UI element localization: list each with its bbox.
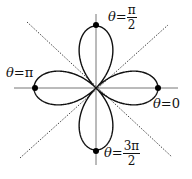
theta-symbol: θ [6, 65, 14, 80]
label-theta-pi: θ=π [6, 66, 33, 79]
equals-sign: = [161, 96, 172, 111]
fraction-numerator: π [127, 4, 137, 18]
equals-sign: = [14, 65, 25, 80]
point-theta-pi-over-2 [93, 22, 99, 28]
theta-symbol: θ [108, 9, 116, 24]
fraction-denominator: 2 [123, 154, 141, 167]
equals-sign: = [112, 145, 123, 160]
fraction-numerator: 3π [123, 140, 141, 154]
fraction-denominator: 2 [127, 18, 137, 31]
theta-symbol: θ [104, 145, 112, 160]
polar-rose-diagram: θ=π2 θ=π θ=0 θ=3π2 [0, 0, 192, 179]
point-theta-0 [155, 85, 161, 91]
label-theta-pi-over-2: θ=π2 [108, 4, 137, 31]
equals-sign: = [116, 9, 127, 24]
diagram-canvas [0, 0, 192, 179]
dotted-diagonal-line [20, 25, 168, 158]
label-theta-3pi-over-2: θ=3π2 [104, 140, 140, 167]
point-theta-3pi-over-2 [93, 148, 99, 154]
point-theta-pi [32, 85, 38, 91]
label-value: 0 [172, 96, 180, 111]
fraction: π2 [127, 4, 137, 31]
label-value: π [25, 65, 34, 80]
fraction: 3π2 [123, 140, 141, 167]
theta-symbol: θ [153, 96, 161, 111]
dotted-diagonal-line [27, 22, 172, 157]
label-theta-0: θ=0 [153, 97, 180, 110]
